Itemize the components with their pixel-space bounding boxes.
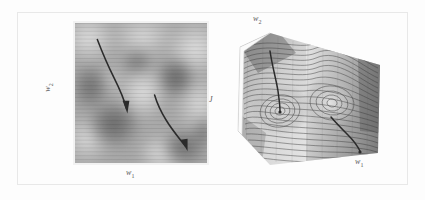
contour-heatmap-svg <box>75 23 207 163</box>
contour-x-axis-label: w1 <box>126 168 135 179</box>
contour-plot-area <box>73 21 209 165</box>
surface-w1-axis-label: w1 <box>355 157 364 168</box>
surface-3d-svg <box>218 13 394 178</box>
surface-panel: w2 w1 <box>218 13 394 178</box>
contour-panel: w2 w1 <box>48 16 216 176</box>
surface-w2-axis-label: w2 <box>253 14 262 25</box>
figure-root: w2 w1 J <box>0 0 425 200</box>
contour-y-axis-label: w2 <box>43 83 54 92</box>
loss-axis-label: J <box>209 95 213 104</box>
